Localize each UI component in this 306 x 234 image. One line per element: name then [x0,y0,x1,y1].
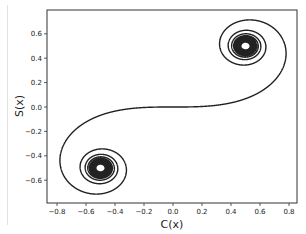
y-axis-label: S(x) [13,95,26,117]
spiral-center-dot [99,166,103,170]
x-tick-label: −0.6 [78,208,96,216]
y-tick-label: −0.2 [25,128,42,136]
spiral-center-dot [244,44,248,48]
x-tick-label: −0.4 [107,208,125,216]
y-tick-label: −0.4 [25,152,43,160]
x-axis-ticks: −0.8−0.6−0.4−0.20.00.20.40.60.8 [49,203,295,216]
x-tick-label: 0.0 [167,208,178,216]
x-tick-label: 0.6 [254,208,266,216]
y-tick-label: 0.2 [31,79,42,87]
y-axis-ticks: 0.60.40.20.0−0.2−0.4−0.6 [25,30,47,184]
y-tick-label: 0.4 [31,55,43,63]
x-tick-label: −0.8 [49,208,66,216]
y-tick-label: 0.0 [31,104,42,112]
x-tick-label: 0.4 [225,208,237,216]
x-tick-label: 0.8 [283,208,294,216]
x-tick-label: −0.2 [136,208,153,216]
y-tick-label: 0.6 [31,30,43,38]
y-tick-label: −0.6 [25,177,43,185]
x-axis-label: C(x) [161,218,184,231]
cornu-spiral-chart: −0.8−0.6−0.4−0.20.00.20.40.60.8 0.60.40.… [0,0,306,234]
x-tick-label: 0.2 [196,208,207,216]
